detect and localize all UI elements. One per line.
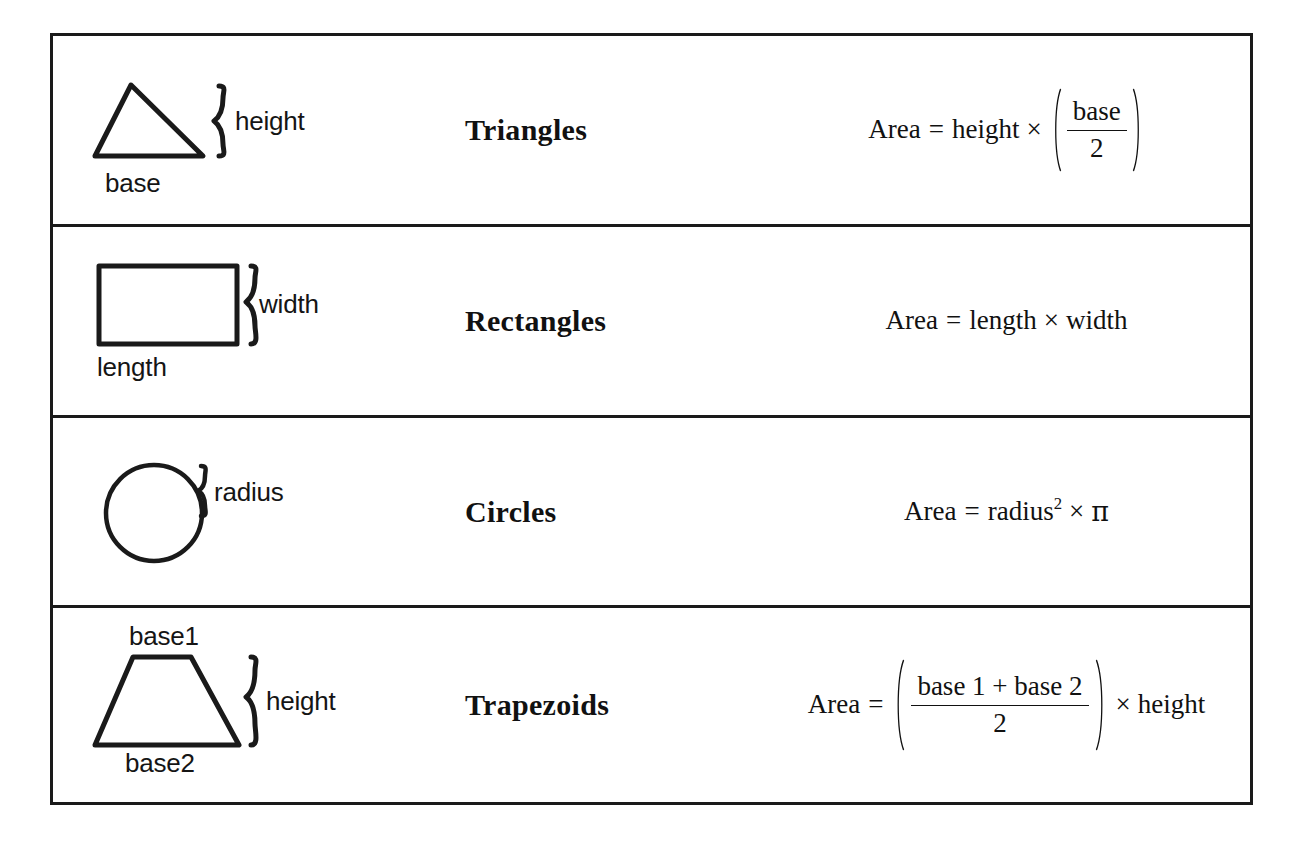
trapezoid-diagram [53, 608, 453, 802]
formula-equals: = [946, 306, 961, 336]
formula-equals: = [964, 497, 979, 527]
circle-area-formula: Area = radius 2 × π [904, 497, 1109, 527]
triangle-base-label: base [105, 168, 161, 199]
formula-cell-circles: Area = radius 2 × π [783, 418, 1250, 605]
trapezoid-base2-label: base2 [125, 748, 195, 779]
table-row: length width Rectangles Area = length × … [53, 227, 1250, 418]
triangle-figure-cell: base height [53, 36, 453, 224]
right-paren-icon [1131, 87, 1143, 173]
formula-term-width: width [1066, 306, 1128, 336]
formula-times: × [1116, 690, 1131, 720]
formula-term-height: height [1138, 690, 1206, 720]
formula-times: × [1026, 115, 1041, 145]
width-brace-icon [246, 266, 256, 344]
height-brace-icon [246, 657, 256, 745]
fraction-base-over-2: base 2 [1067, 96, 1127, 163]
formula-lhs: Area [868, 115, 920, 145]
formula-equals: = [929, 115, 944, 145]
trapezoid-base1-label: base1 [129, 621, 199, 652]
triangle-area-formula: Area = height × base 2 [868, 87, 1144, 173]
shape-name: Trapezoids [465, 688, 609, 722]
right-paren-icon [1093, 658, 1106, 752]
left-paren-icon [894, 658, 907, 752]
formula-lhs: Area [904, 497, 956, 527]
trapezoid-figure-cell: base1 base2 height [53, 608, 453, 802]
formula-cell-triangles: Area = height × base 2 [783, 36, 1250, 224]
formula-cell-rectangles: Area = length × width [783, 227, 1250, 415]
rectangle-area-formula: Area = length × width [886, 306, 1128, 336]
formula-lhs: Area [886, 306, 938, 336]
rectangle-length-label: length [97, 352, 167, 383]
formula-times: × [1069, 497, 1084, 527]
formula-cell-trapezoids: Area = base 1 + base 2 2 × height [783, 608, 1250, 802]
rectangle-width-label: width [259, 289, 319, 320]
left-paren-icon [1051, 87, 1063, 173]
rectangle-diagram [53, 227, 453, 418]
shape-name: Triangles [465, 113, 587, 147]
circle-diagram [53, 418, 453, 608]
circle-figure-cell: radius [53, 418, 453, 605]
shape-name-cell-rectangles: Rectangles [453, 304, 783, 338]
formula-term-radius: radius [988, 497, 1054, 527]
formula-term-height: height [952, 115, 1020, 145]
shape-name: Rectangles [465, 304, 606, 338]
fraction-bases-over-2: base 1 + base 2 2 [911, 671, 1088, 738]
formula-lhs: Area [808, 690, 860, 720]
formula-equals: = [868, 690, 883, 720]
formula-times: × [1044, 306, 1059, 336]
fraction-denominator: 2 [1090, 131, 1104, 164]
trapezoid-area-formula: Area = base 1 + base 2 2 × height [808, 658, 1206, 752]
area-formulas-table: base height Triangles Area = height × ba… [50, 33, 1253, 805]
table-row: base1 base2 height Trapezoids Area = bas… [53, 608, 1250, 802]
table-row: radius Circles Area = radius 2 × π [53, 418, 1250, 608]
page-root: base height Triangles Area = height × ba… [0, 0, 1297, 851]
rectangle-figure-cell: length width [53, 227, 453, 415]
shape-name-cell-triangles: Triangles [453, 113, 783, 147]
fraction-numerator: base 1 + base 2 [911, 671, 1088, 705]
table-row: base height Triangles Area = height × ba… [53, 36, 1250, 227]
formula-term-length: length [969, 306, 1037, 336]
formula-term-pi: π [1091, 497, 1109, 527]
circle-radius-label: radius [214, 477, 284, 508]
fraction-denominator: 2 [993, 706, 1007, 739]
height-brace-icon [214, 86, 224, 156]
shape-name-cell-circles: Circles [453, 495, 783, 529]
fraction-numerator: base [1067, 96, 1127, 130]
shape-name-cell-trapezoids: Trapezoids [453, 688, 783, 722]
trapezoid-height-label: height [266, 686, 336, 717]
triangle-height-label: height [235, 106, 305, 137]
shape-name: Circles [465, 495, 557, 529]
